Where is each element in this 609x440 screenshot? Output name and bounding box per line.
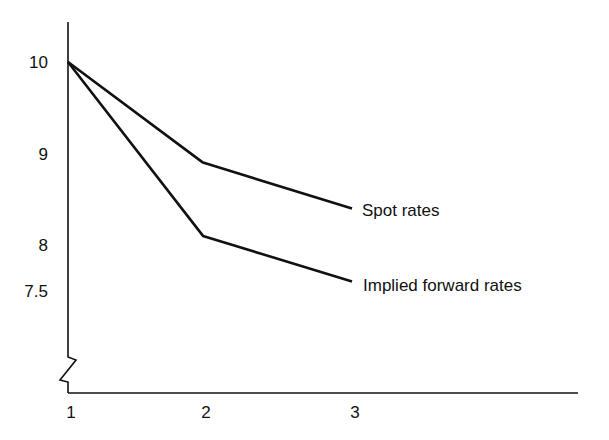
x-tick-label: 2 (201, 403, 210, 422)
y-axis (60, 22, 76, 393)
spot-rates-line (68, 62, 352, 208)
x-tick-label: 1 (66, 403, 75, 422)
x-tick-labels: 123 (66, 403, 359, 422)
y-tick-label: 7.5 (24, 282, 48, 301)
spot-rates-label: Spot rates (362, 201, 440, 220)
implied-forward-rates-label: Implied forward rates (363, 276, 522, 295)
x-tick-label: 3 (350, 403, 359, 422)
line-chart: 10987.5 123 Spot rates Implied forward r… (0, 0, 609, 440)
y-tick-labels: 10987.5 (24, 53, 48, 301)
y-tick-label: 8 (39, 236, 48, 255)
y-tick-label: 10 (29, 53, 48, 72)
y-tick-label: 9 (39, 145, 48, 164)
